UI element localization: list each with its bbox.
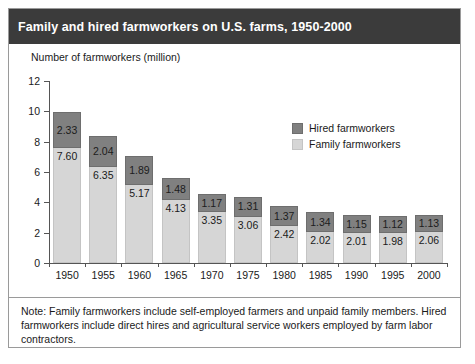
- bar-segment-family-1950: 7.60: [53, 148, 81, 263]
- y-tick-label: 10: [28, 105, 40, 117]
- page-title: Family and hired farmworkers on U.S. far…: [9, 20, 352, 34]
- chart-title-bar: Family and hired farmworkers on U.S. far…: [9, 9, 460, 44]
- x-tick-label-1970: 1970: [200, 269, 223, 281]
- bar-segment-family-1980: 2.42: [270, 226, 298, 263]
- y-tick-label: 8: [34, 136, 40, 148]
- bar-value-family-1995: 1.98: [383, 236, 403, 247]
- plot-area: 024681012 195019551960196519701975198019…: [49, 81, 447, 263]
- bar-group-1975: 3.061.31: [234, 197, 262, 263]
- bar-segment-family-1985: 2.02: [306, 232, 334, 263]
- y-tick-mark: [44, 111, 49, 112]
- bar-segment-hired-1975: 1.31: [234, 197, 262, 217]
- bar-value-hired-1970: 1.17: [202, 198, 222, 209]
- note-divider: [9, 297, 460, 298]
- x-tick-mark: [447, 263, 448, 267]
- legend-swatch-hired-icon: [292, 123, 303, 134]
- bar-segment-hired-1955: 2.04: [89, 136, 117, 167]
- bar-group-1970: 3.351.17: [198, 194, 226, 263]
- x-tick-label-1990: 1990: [345, 269, 368, 281]
- x-tick-label-1955: 1955: [92, 269, 115, 281]
- bar-group-2000: 2.061.13: [415, 215, 443, 263]
- bar-value-family-1970: 3.35: [202, 215, 222, 226]
- y-tick-label: 6: [34, 166, 40, 178]
- y-tick-mark: [44, 233, 49, 234]
- y-axis-line: [49, 81, 50, 264]
- chart-figure: Family and hired farmworkers on U.S. far…: [8, 8, 461, 348]
- x-tick-mark: [49, 263, 50, 267]
- legend-label-family: Family farmworkers: [309, 138, 401, 150]
- bar-value-family-1990: 2.01: [346, 236, 366, 247]
- y-tick-label: 2: [34, 227, 40, 239]
- bar-value-hired-1985: 1.34: [310, 217, 330, 228]
- bar-value-family-1975: 3.06: [238, 220, 258, 231]
- bar-group-1960: 5.171.89: [125, 156, 153, 263]
- x-tick-label-1975: 1975: [236, 269, 259, 281]
- bar-group-1990: 2.011.15: [343, 215, 371, 263]
- x-tick-label-1960: 1960: [128, 269, 151, 281]
- bar-segment-hired-1965: 1.48: [162, 178, 190, 200]
- x-tick-mark: [266, 263, 267, 267]
- bar-value-hired-1965: 1.48: [165, 184, 185, 195]
- chart-subtitle: Number of farmworkers (million): [31, 51, 180, 63]
- x-tick-mark: [375, 263, 376, 267]
- bar-value-hired-1950: 2.33: [57, 125, 77, 136]
- bar-segment-hired-1980: 1.37: [270, 206, 298, 227]
- y-tick-mark: [44, 142, 49, 143]
- bar-segment-hired-2000: 1.13: [415, 215, 443, 232]
- y-tick-mark: [44, 172, 49, 173]
- x-tick-label-1965: 1965: [164, 269, 187, 281]
- bar-value-family-1950: 7.60: [57, 151, 77, 162]
- bar-value-hired-1990: 1.15: [346, 219, 366, 230]
- x-tick-mark: [85, 263, 86, 267]
- x-tick-label-1980: 1980: [272, 269, 295, 281]
- bar-segment-hired-1970: 1.17: [198, 194, 226, 212]
- bar-value-family-2000: 2.06: [419, 235, 439, 246]
- bar-value-family-1965: 4.13: [165, 203, 185, 214]
- bar-group-1965: 4.131.48: [162, 178, 190, 263]
- legend-item-hired: Hired farmworkers: [292, 121, 401, 135]
- bar-segment-family-1995: 1.98: [379, 233, 407, 263]
- y-tick-mark: [44, 81, 49, 82]
- y-tick-label: 4: [34, 196, 40, 208]
- x-tick-label-1985: 1985: [309, 269, 332, 281]
- bar-group-1995: 1.981.12: [379, 216, 407, 263]
- bar-segment-family-1970: 3.35: [198, 212, 226, 263]
- x-tick-mark: [194, 263, 195, 267]
- bar-segment-hired-1950: 2.33: [53, 112, 81, 147]
- bar-segment-family-1975: 3.06: [234, 217, 262, 263]
- bar-group-1985: 2.021.34: [306, 212, 334, 263]
- bar-value-hired-1980: 1.37: [274, 211, 294, 222]
- bar-value-hired-1995: 1.12: [383, 219, 403, 230]
- bar-value-hired-1955: 2.04: [93, 146, 113, 157]
- bar-segment-family-1990: 2.01: [343, 233, 371, 263]
- bar-group-1980: 2.421.37: [270, 206, 298, 263]
- x-tick-mark: [338, 263, 339, 267]
- legend-swatch-family-icon: [292, 139, 303, 150]
- y-tick-label: 12: [28, 75, 40, 87]
- bar-value-family-1960: 5.17: [129, 188, 149, 199]
- bar-segment-family-1955: 6.35: [89, 167, 117, 263]
- bar-group-1955: 6.352.04: [89, 136, 117, 263]
- bar-segment-family-2000: 2.06: [415, 232, 443, 263]
- x-tick-label-1995: 1995: [381, 269, 404, 281]
- bar-value-family-1955: 6.35: [93, 170, 113, 181]
- x-tick-label-2000: 2000: [417, 269, 440, 281]
- bar-segment-family-1965: 4.13: [162, 200, 190, 263]
- x-tick-mark: [158, 263, 159, 267]
- bar-value-hired-1960: 1.89: [129, 165, 149, 176]
- bar-segment-hired-1960: 1.89: [125, 156, 153, 185]
- chart-legend: Hired farmworkers Family farmworkers: [292, 121, 401, 153]
- legend-label-hired: Hired farmworkers: [309, 122, 395, 134]
- x-tick-label-1950: 1950: [55, 269, 78, 281]
- bar-value-family-1985: 2.02: [310, 235, 330, 246]
- bar-value-hired-2000: 1.13: [419, 218, 439, 229]
- x-tick-mark: [121, 263, 122, 267]
- bar-value-hired-1975: 1.31: [238, 201, 258, 212]
- x-tick-mark: [302, 263, 303, 267]
- bar-value-family-1980: 2.42: [274, 229, 294, 240]
- bar-group-1950: 7.602.33: [53, 112, 81, 263]
- legend-item-family: Family farmworkers: [292, 137, 401, 151]
- y-tick-mark: [44, 202, 49, 203]
- bar-segment-hired-1985: 1.34: [306, 212, 334, 232]
- bar-segment-hired-1990: 1.15: [343, 215, 371, 232]
